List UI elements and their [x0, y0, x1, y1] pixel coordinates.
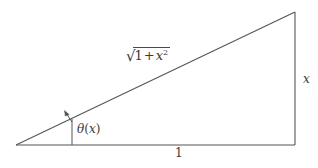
exponent: 2: [163, 48, 168, 57]
plus-operator: +: [143, 48, 156, 63]
sqrt-expression: √1+x2: [126, 47, 170, 64]
radicand: 1+x2: [133, 47, 171, 62]
theta-close-paren: ): [96, 122, 101, 136]
hypotenuse-line: [16, 12, 295, 145]
theta-argument: x: [89, 122, 96, 136]
radicand-second-term: x: [156, 48, 163, 63]
angle-label: θ(x): [77, 123, 100, 135]
triangle-figure: √1+x2 θ(x) x 1: [0, 0, 318, 168]
base-side-label: 1: [175, 147, 183, 159]
angle-arrow-head: [65, 111, 70, 117]
vertical-side-label: x: [303, 73, 310, 85]
hypotenuse-length-label: √1+x2: [126, 47, 170, 64]
radicand-first-term: 1: [135, 48, 143, 63]
triangle-drawing: [0, 0, 318, 168]
